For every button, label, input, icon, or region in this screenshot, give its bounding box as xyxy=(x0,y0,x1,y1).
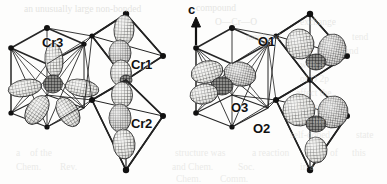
axis-label-c: c xyxy=(188,2,195,17)
crystal-structure-figure: an unusually large non-bondedcompoundO—C… xyxy=(0,0,387,184)
structure-drawing xyxy=(0,0,387,184)
o2-orbital-lobes xyxy=(281,92,350,163)
site-label-cr2: Cr2 xyxy=(131,116,152,131)
site-label-cr1: Cr1 xyxy=(131,57,152,72)
cr1-orbital-lobes xyxy=(109,14,135,86)
site-label-cr3: Cr3 xyxy=(42,35,63,50)
left-cluster xyxy=(7,11,166,173)
site-label-o3: O3 xyxy=(231,100,248,115)
site-label-o2: O2 xyxy=(253,121,270,136)
c-axis-arrow xyxy=(192,17,201,45)
site-label-o1: O1 xyxy=(258,34,275,49)
o1-orbital-lobes xyxy=(284,27,349,70)
